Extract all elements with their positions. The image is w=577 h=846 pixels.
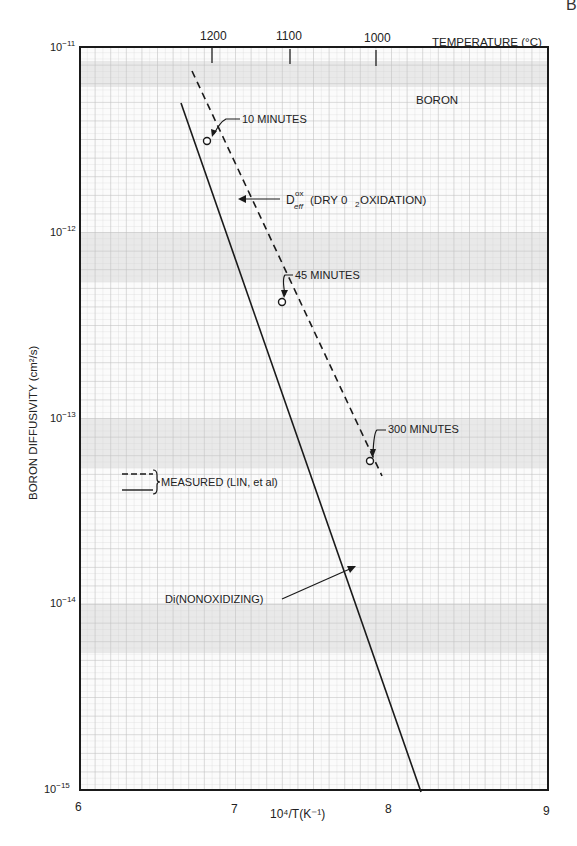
svg-text:(DRY 0: (DRY 0 [310,194,347,206]
point-10-minutes [204,138,211,145]
svg-text:eff: eff [294,202,304,211]
legend-label: MEASURED (LIN, et al) [161,476,278,488]
top-tick-1100: 1100 [276,29,302,43]
y-tick-1e-11: 10−11 [50,39,76,53]
svg-text:OXIDATION): OXIDATION) [360,194,426,206]
label-boron: BORON [416,94,458,106]
label-10-minutes: 10 MINUTES [242,113,307,125]
point-45-minutes [279,299,286,306]
y-tick-1e-13: 10−13 [50,410,76,424]
svg-text:ox: ox [295,189,303,198]
label-45-minutes: 45 MINUTES [295,269,360,281]
x-axis-label: 10⁴/T(K⁻¹) [270,807,325,821]
y-tick-1e-14: 10−14 [50,595,76,609]
plot-area [80,47,548,790]
label-nonoxidizing: Di(NONOXIDIZING) [165,593,263,605]
top-axis-label: TEMPERATURE (°C) [432,36,542,48]
y-tick-labels: 10−11 10−12 10−13 10−14 10−15 [44,39,76,795]
label-300-minutes: 300 MINUTES [388,423,459,435]
point-300-minutes [367,458,374,465]
x-tick-9: 9 [543,804,550,818]
x-tick-6: 6 [75,800,82,814]
x-tick-7: 7 [231,802,238,816]
x-tick-8: 8 [385,802,392,816]
y-tick-1e-15: 10−15 [44,781,70,795]
y-axis-label: BORON DIFFUSIVITY (cm²/s) [27,345,39,500]
top-tick-1200: 1200 [200,29,227,43]
y-tick-1e-12: 10−12 [50,224,76,238]
top-tick-1000: 1000 [364,31,391,45]
